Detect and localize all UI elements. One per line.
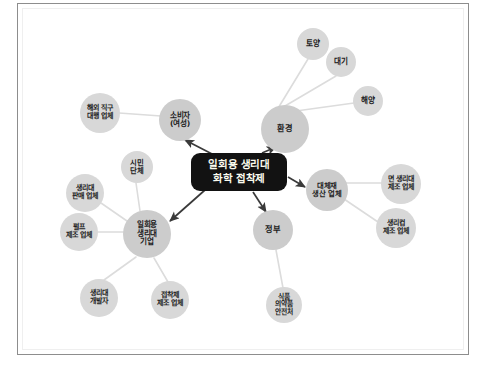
node-pulp-maker[interactable]: 펄프 제조 업체 bbox=[60, 213, 98, 251]
arrow-to-government bbox=[253, 192, 266, 212]
node-cotton-pad-maker[interactable]: 면 생리대 제조 업체 bbox=[381, 164, 421, 204]
center-node-disposable-pad-chemical-adhesive[interactable]: 일회용 생리대 화학 접착제 bbox=[191, 153, 287, 191]
arrow-to-company bbox=[170, 190, 205, 221]
node-company[interactable]: 일회용 생리대 기업 bbox=[123, 210, 171, 258]
node-government[interactable]: 정부 bbox=[253, 210, 293, 250]
node-label-cup-maker: 생리컵 제조 업체 bbox=[383, 220, 408, 236]
arrow-to-alternative bbox=[288, 177, 305, 187]
node-label-ocean: 해양 bbox=[361, 97, 375, 106]
node-overseas-agent[interactable]: 해외 직구 대행 업체 bbox=[80, 93, 120, 133]
node-pad-seller[interactable]: 생리대 판매 업체 bbox=[66, 174, 104, 212]
node-label-pulp-maker: 펄프 제조 업체 bbox=[66, 224, 91, 240]
edge-consumer-overseas bbox=[119, 113, 161, 116]
node-alternative[interactable]: 대체재 생산 업체 bbox=[306, 169, 348, 211]
node-label-consumer: 소비자 (여성) bbox=[170, 112, 190, 129]
edge-environment-ocean bbox=[296, 103, 354, 111]
node-air[interactable]: 대기 bbox=[326, 47, 356, 77]
edge-company-adhesive bbox=[154, 258, 168, 282]
node-label-company: 일회용 생리대 기업 bbox=[137, 221, 157, 247]
node-label-civic-group: 시민 단체 bbox=[130, 159, 144, 176]
center-node-line1: 일회용 생리대 bbox=[208, 158, 270, 172]
node-ocean[interactable]: 해양 bbox=[353, 86, 383, 116]
center-node-line2: 화학 접착제 bbox=[213, 172, 265, 186]
diagram-page: 소비자 (여성)환경일회용 생리대 기업대체재 생산 업체정부해외 직구 대행 … bbox=[0, 0, 487, 376]
node-label-mfds: 식품 의약품 안전처 bbox=[275, 294, 292, 317]
node-label-government: 정부 bbox=[265, 225, 281, 234]
node-label-environment: 환경 bbox=[277, 124, 293, 133]
node-label-alternative: 대체재 생산 업체 bbox=[312, 182, 342, 199]
node-cup-maker[interactable]: 생리컵 제조 업체 bbox=[376, 208, 416, 248]
node-label-cotton-pad-maker: 면 생리대 제조 업체 bbox=[388, 176, 413, 192]
node-civic-group[interactable]: 시민 단체 bbox=[121, 151, 153, 183]
node-adhesive-maker[interactable]: 접착제 제조 업체 bbox=[151, 281, 189, 319]
edge-company-civic bbox=[136, 183, 140, 211]
edge-company-developer bbox=[104, 257, 136, 280]
node-soil[interactable]: 토양 bbox=[297, 28, 329, 60]
edge-environment-air bbox=[285, 76, 336, 106]
node-label-adhesive-maker: 접착제 제조 업체 bbox=[157, 292, 182, 308]
node-label-overseas-agent: 해외 직구 대행 업체 bbox=[87, 105, 112, 121]
node-environment[interactable]: 환경 bbox=[261, 105, 309, 153]
node-label-pad-developer: 생리대 개발자 bbox=[90, 290, 107, 306]
node-label-soil: 토양 bbox=[306, 40, 320, 49]
edge-alt-cup bbox=[344, 199, 378, 222]
node-label-pad-seller: 생리대 판매 업체 bbox=[72, 185, 97, 201]
edge-gov-mfds bbox=[276, 250, 283, 288]
edge-company-seller bbox=[101, 203, 127, 221]
node-mfds[interactable]: 식품 의약품 안전처 bbox=[266, 287, 302, 323]
node-pad-developer[interactable]: 생리대 개발자 bbox=[80, 279, 118, 317]
node-consumer[interactable]: 소비자 (여성) bbox=[159, 99, 201, 141]
node-label-air: 대기 bbox=[334, 58, 348, 67]
